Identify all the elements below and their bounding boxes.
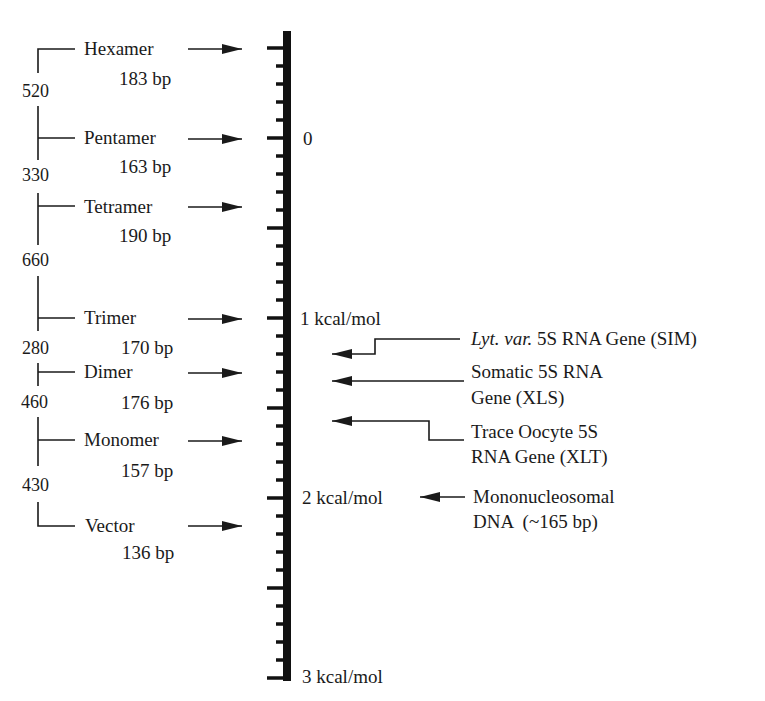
scale-label-0: 0 (303, 128, 313, 150)
construct-size: 163 bp (119, 156, 171, 178)
reference-xlt-line1: Trace Oocyte 5S (471, 421, 598, 443)
bracket-value: 460 (21, 392, 48, 412)
bracket-value: 430 (22, 475, 49, 495)
scale-bar (267, 31, 291, 681)
bracket-value: 520 (22, 81, 49, 101)
construct-size: 170 bp (121, 337, 173, 359)
construct-size: 183 bp (119, 68, 171, 90)
reference-mono-line2: DNA (~165 bp) (473, 511, 598, 533)
bracket-value: 660 (22, 250, 49, 270)
scale-label-3: 3 kcal/mol (302, 666, 383, 688)
reference-arrows (332, 339, 465, 497)
construct-name: Trimer (84, 307, 136, 329)
construct-size: 136 bp (122, 542, 174, 564)
reference-xls-line1: Somatic 5S RNA (471, 361, 603, 383)
construct-name: Tetramer (84, 196, 152, 218)
construct-name: Pentamer (84, 127, 156, 149)
bracket-value: 330 (22, 165, 49, 185)
scale-ticks (267, 48, 284, 678)
species-name: Lyt. var. (471, 328, 532, 349)
construct-size: 190 bp (119, 225, 171, 247)
reference-xlt-line2: RNA Gene (XLT) (471, 446, 608, 468)
scale-label-1: 1 kcal/mol (300, 308, 381, 330)
construct-name: Monomer (84, 429, 159, 451)
bracket-value: 280 (22, 338, 49, 358)
reference-xls-line2: Gene (XLS) (471, 387, 564, 409)
construct-name: Dimer (84, 361, 133, 383)
reference-mono-line1: Mononucleosomal (473, 486, 614, 508)
construct-name: Vector (85, 515, 135, 537)
energy-diagram (0, 0, 765, 701)
construct-size: 157 bp (121, 460, 173, 482)
construct-size: 176 bp (121, 392, 173, 414)
reference-sim: Lyt. var. 5S RNA Gene (SIM) (471, 328, 697, 350)
scale-label-2: 2 kcal/mol (302, 487, 383, 509)
bracket (38, 49, 75, 526)
construct-arrows (188, 49, 242, 526)
construct-name: Hexamer (84, 38, 154, 60)
